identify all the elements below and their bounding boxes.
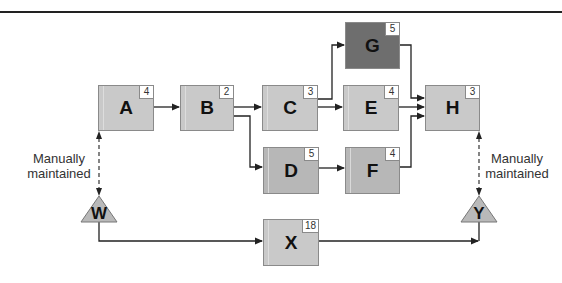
node-label: G — [346, 35, 399, 57]
node-label: X — [264, 232, 318, 254]
node-label: E — [344, 97, 398, 119]
duration-badge: 18 — [302, 220, 318, 233]
triangle-label: Y — [460, 204, 498, 224]
duration-badge: 5 — [304, 148, 318, 161]
duration-badge: 5 — [385, 23, 399, 36]
annotation-line: maintained — [24, 166, 94, 181]
node-c[interactable]: C 3 — [262, 85, 318, 131]
triangle-y[interactable]: Y — [460, 195, 498, 223]
node-label: F — [346, 160, 399, 182]
node-b[interactable]: B 2 — [180, 85, 234, 131]
duration-badge: 2 — [219, 86, 233, 99]
triangle-w[interactable]: W — [80, 195, 118, 223]
duration-badge: 4 — [384, 86, 398, 99]
annotation-line: Manually — [24, 151, 94, 166]
duration-badge: 3 — [303, 86, 317, 99]
duration-badge: 3 — [465, 86, 479, 99]
node-g[interactable]: G 5 — [345, 22, 400, 69]
node-label: C — [263, 97, 317, 119]
node-label: D — [264, 160, 318, 182]
node-label: A — [99, 97, 153, 119]
annotation-line: Manually — [482, 151, 552, 166]
annotation-left: Manually maintained — [24, 151, 94, 181]
annotation-line: maintained — [482, 166, 552, 181]
node-d[interactable]: D 5 — [263, 147, 319, 194]
duration-badge: 4 — [139, 86, 153, 99]
duration-badge: 4 — [385, 148, 399, 161]
node-e[interactable]: E 4 — [343, 85, 399, 131]
triangle-label: W — [80, 204, 118, 224]
annotation-right: Manually maintained — [482, 151, 552, 181]
node-x[interactable]: X 18 — [263, 219, 319, 266]
node-h[interactable]: H 3 — [425, 85, 480, 131]
node-a[interactable]: A 4 — [98, 85, 154, 131]
node-label: B — [181, 97, 233, 119]
node-label: H — [426, 97, 479, 119]
node-f[interactable]: F 4 — [345, 147, 400, 194]
